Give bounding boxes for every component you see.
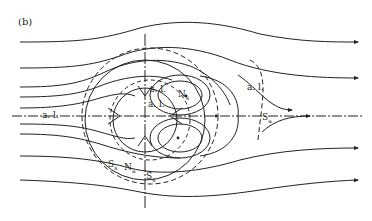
streamline [20, 47, 358, 78]
label-attachment-line-left: a. l. [42, 111, 59, 120]
label-saddle-sa: Sa [262, 113, 272, 124]
streamline [20, 22, 358, 42]
label-saddle-ss-1: Ss [108, 160, 117, 171]
panel-label: (b) [18, 17, 32, 27]
label-saddle-ss-2: Ss [146, 172, 155, 183]
streamline [20, 180, 358, 196]
label-separation-line: s. l. [150, 85, 166, 94]
label-node-na: Na [124, 163, 135, 174]
label-attachment-line-center: a. l. [148, 100, 165, 109]
label-node-ns: Ns [178, 90, 189, 101]
label-attachment-line-right: a. l. [247, 83, 264, 92]
